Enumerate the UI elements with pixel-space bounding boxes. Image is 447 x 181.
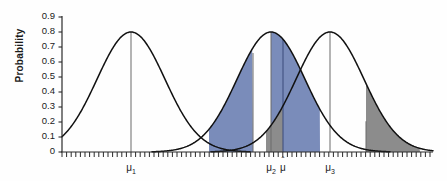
y-axis-tick-label: 0.5 — [29, 70, 55, 81]
x-axis-label-mu3: μ3 — [315, 162, 345, 175]
y-axis-tick-label: 0.9 — [29, 10, 55, 21]
y-axis-tick-label: 0.1 — [29, 130, 55, 141]
shaded-region-gray-right-tail — [366, 83, 420, 152]
y-axis-tick-label: 0.8 — [29, 25, 55, 36]
shaded-region-blue-left-lobe — [209, 49, 253, 152]
y-axis-tick-label: 0.2 — [29, 115, 55, 126]
y-axis-tick-label: 0.3 — [29, 100, 55, 111]
y-axis-tick-label: 0.4 — [29, 85, 55, 96]
mu-hat-caret-icon: ˆ — [281, 156, 284, 165]
chart-canvas — [0, 0, 447, 181]
y-axis-tick-label: 0.6 — [29, 55, 55, 66]
chart-figure: Probability 0.90.80.70.60.50.40.30.20.10… — [0, 0, 447, 181]
x-axis-label-mu-hat: ˆμ — [268, 162, 298, 173]
y-axis-tick-label: 0.7 — [29, 40, 55, 51]
x-axis-label-mu1: μ1 — [116, 162, 146, 175]
y-axis-tick-label: 0 — [29, 145, 55, 156]
